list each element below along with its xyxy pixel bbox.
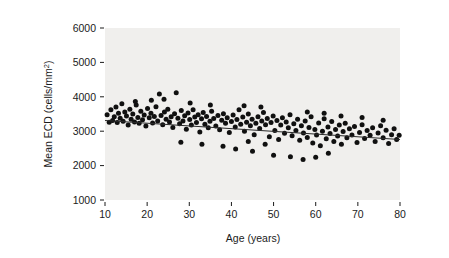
data-point [301,157,306,162]
data-point [215,113,220,118]
data-point [267,134,272,139]
data-point [199,142,204,147]
y-tick-label: 2000 [73,159,97,171]
data-point [250,117,255,122]
data-point [313,155,318,160]
x-tick-label: 80 [394,208,406,220]
data-point [174,90,179,95]
data-point [142,113,147,118]
data-point [223,121,228,126]
data-point [343,121,348,126]
data-point [211,116,216,121]
data-point [186,110,191,115]
data-point [165,107,170,112]
data-point [339,114,344,119]
data-point [360,122,365,127]
data-point [246,112,251,117]
data-point [242,103,247,108]
data-point [140,117,145,122]
data-point [280,115,285,120]
data-point [197,129,202,134]
data-point [180,118,185,123]
data-point [331,139,336,144]
data-point [337,123,342,128]
data-point [240,115,245,120]
y-tick-label: 3000 [73,125,97,137]
data-point [360,115,365,120]
data-point [265,116,270,121]
data-point [113,105,118,110]
data-point [147,115,152,120]
data-point [299,123,304,128]
data-point [355,140,360,145]
data-point [322,111,327,116]
data-point [124,114,129,119]
data-point [155,118,160,123]
data-point [252,132,257,137]
data-point [357,130,362,135]
data-point [329,119,334,124]
data-point [196,112,201,117]
data-point [333,127,338,132]
data-point [326,151,331,156]
data-point [322,116,327,121]
data-point [389,132,394,137]
data-point [172,111,177,116]
data-point [392,126,397,131]
data-point [384,128,389,133]
data-point [306,125,311,130]
data-point [188,100,193,105]
data-point [162,97,167,102]
data-point [138,109,143,114]
data-point [145,106,150,111]
data-point [135,115,140,120]
data-point [305,135,310,140]
x-tick-label: 50 [268,208,280,220]
data-point [191,107,196,112]
data-point [221,144,226,149]
data-point [105,112,110,117]
data-point [194,120,199,125]
x-tick-label: 60 [310,208,322,220]
data-point [381,118,386,123]
data-point [310,140,315,145]
data-point [221,111,226,116]
data-point [152,114,157,119]
data-point [187,117,192,122]
data-point [305,109,310,114]
data-point [284,119,289,124]
data-point [116,111,121,116]
data-point [316,120,321,125]
data-point [263,142,268,147]
data-point [261,110,266,115]
data-point [259,118,264,123]
data-point [288,112,293,117]
data-point [244,120,249,125]
data-point [248,123,253,128]
data-point [233,147,238,152]
data-point [295,117,300,122]
data-point [376,130,381,135]
data-point [179,108,184,113]
data-point [258,105,263,110]
data-point [167,119,172,124]
x-tick-label: 20 [141,208,153,220]
y-tick-label: 1000 [73,194,97,206]
x-tick-label: 40 [226,208,238,220]
data-point [325,125,330,130]
y-tick-label: 5000 [73,56,97,68]
data-point [365,128,370,133]
data-point [288,154,293,159]
y-axis-title-main: Mean ECD (cells/mm [42,68,54,167]
data-point [238,122,243,127]
data-point [309,114,314,119]
data-point [276,137,281,142]
data-point [320,129,325,134]
data-point [269,120,274,125]
data-point [303,118,308,123]
data-point [291,121,296,126]
data-point [227,130,232,135]
data-point [126,123,131,128]
data-point [255,114,260,119]
data-point [127,107,132,112]
